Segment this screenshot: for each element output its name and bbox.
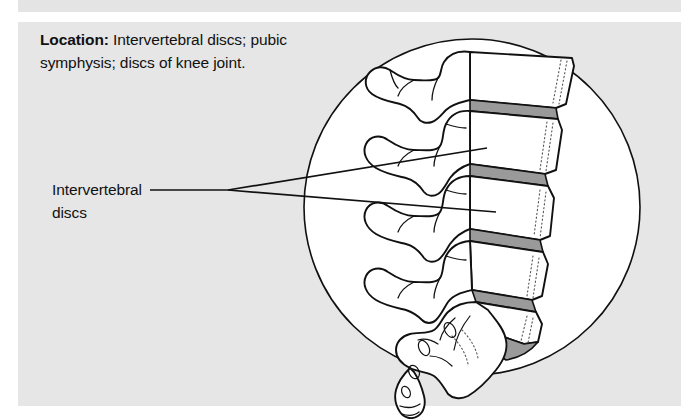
caption-lead-label: Location: [40,31,109,48]
callout-label-line-1: Intervertebral [52,178,232,201]
callout-label: Intervertebral discs [52,178,232,224]
location-caption: Location: Intervertebral discs; pubic sy… [40,28,290,74]
top-divider-strip [18,0,681,12]
callout-label-line-2: discs [52,201,232,224]
figure-page: Location: Intervertebral discs; pubic sy… [0,0,681,419]
